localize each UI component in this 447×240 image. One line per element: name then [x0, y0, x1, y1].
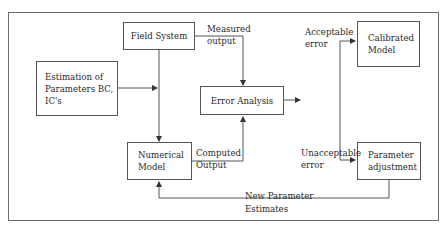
new-parameter-estimates-label: New Parameter Estimates	[245, 189, 313, 214]
calibrated-model-label-line1: Calibrated	[368, 32, 414, 44]
new-parameter-estimates-line2: Estimates	[245, 204, 313, 214]
numerical-model-label-line2: Model	[138, 161, 184, 173]
computed-output-line1: Computed	[196, 147, 241, 159]
acceptable-error-line1: Acceptable	[305, 26, 353, 38]
measured-output-line1: Measured	[207, 23, 251, 35]
field-system-label: Field System	[131, 30, 188, 42]
numerical-model-box: Numerical Model	[127, 142, 192, 180]
measured-output-label: Measured output	[207, 23, 251, 47]
error-analysis-label: Error Analysis	[211, 95, 274, 107]
error-analysis-box: Error Analysis	[200, 86, 284, 115]
unacceptable-error-line2: error	[301, 159, 361, 171]
computed-output-line2: Output	[196, 159, 241, 171]
acceptable-error-label: Acceptable error	[305, 26, 353, 50]
parameter-adjustment-label-line2: adjustment	[368, 161, 417, 173]
estimation-label-line3: IC's	[45, 95, 113, 107]
parameter-adjustment-box: Parameter adjustment	[357, 142, 421, 180]
estimation-box: Estimation of Parameters BC, IC's	[36, 61, 118, 116]
computed-output-label: Computed Output	[196, 147, 241, 171]
field-system-box: Field System	[123, 22, 195, 50]
estimation-label-line1: Estimation of	[45, 71, 113, 83]
new-parameter-estimates-line1: New Parameter	[245, 189, 313, 204]
parameter-adjustment-label-line1: Parameter	[368, 149, 417, 161]
acceptable-arrow	[340, 41, 355, 160]
calibrated-model-label-line2: Model	[368, 44, 414, 56]
unacceptable-error-line1: Unacceptable	[301, 147, 361, 159]
estimation-label-line2: Parameters BC,	[45, 83, 113, 95]
unacceptable-error-label: Unacceptable error	[301, 147, 361, 171]
acceptable-error-line2: error	[305, 38, 353, 50]
numerical-model-label-line1: Numerical	[138, 149, 184, 161]
measured-output-line2: output	[207, 35, 251, 47]
calibrated-model-box: Calibrated Model	[357, 21, 420, 67]
